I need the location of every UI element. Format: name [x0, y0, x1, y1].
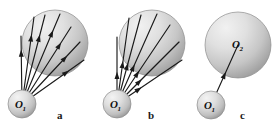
- source-node-label-subscript: 1: [23, 105, 27, 113]
- panel-a: O1a: [8, 10, 88, 121]
- target-node-label-subscript: 2: [239, 45, 244, 53]
- source-node-label-subscript: 1: [212, 106, 216, 114]
- ray-diagram-svg: O1aO1bO2O1c: [0, 0, 279, 132]
- ray-arrowhead: [124, 63, 129, 71]
- panel-b: O1b: [103, 10, 185, 121]
- source-node-label-subscript: 1: [118, 105, 122, 113]
- panel-caption-a: a: [57, 109, 63, 121]
- figure-container: O1aO1bO2O1c: [0, 0, 279, 132]
- ray-arrowhead: [115, 72, 120, 79]
- panels-layer: O1aO1bO2O1c: [8, 10, 271, 121]
- panel-caption-b: b: [148, 109, 154, 121]
- ray-arrowhead: [134, 87, 141, 93]
- panel-caption-c: c: [240, 109, 245, 121]
- panel-c: O2O1c: [197, 12, 271, 121]
- ray-arrowhead: [120, 61, 125, 68]
